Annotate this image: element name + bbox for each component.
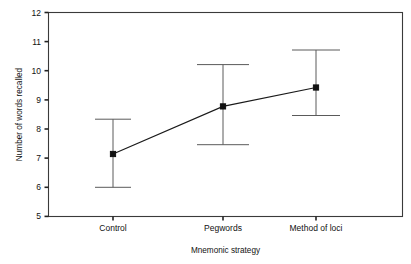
data-point-method-of-loci: [313, 85, 318, 90]
y-tick-label: 11: [32, 37, 41, 47]
chart-container: 12 11 10 9 8 7 6 5 Number of words recal…: [0, 0, 411, 264]
error-bar-method-of-loci: [292, 50, 340, 116]
y-tick-label: 10: [32, 66, 42, 76]
data-point-control: [110, 151, 115, 156]
y-tick-label: 7: [36, 153, 41, 163]
x-tick-label-pegwords: Pegwords: [204, 223, 242, 233]
y-tick-label: 5: [36, 211, 41, 221]
y-axis-title: Number of words recalled: [15, 67, 24, 161]
y-tick-label: 6: [36, 182, 41, 192]
y-tick-label: 8: [36, 124, 41, 134]
series-line-mean: [113, 88, 316, 155]
x-tick-label-method-of-loci: Method of loci: [290, 223, 343, 233]
x-axis-title: Mnemonic strategy: [191, 246, 261, 255]
y-tick-label: 12: [32, 8, 42, 18]
x-tick-label-control: Control: [99, 223, 127, 233]
plot-frame: [49, 13, 403, 217]
y-axis-ticks: [45, 13, 49, 217]
error-bar-line-chart: 12 11 10 9 8 7 6 5 Number of words recal…: [0, 0, 411, 264]
y-axis-tick-labels: 12 11 10 9 8 7 6 5: [32, 8, 42, 222]
y-tick-label: 9: [36, 95, 41, 105]
data-point-pegwords: [220, 104, 225, 109]
x-axis-tick-labels: Control Pegwords Method of loci: [99, 223, 342, 233]
